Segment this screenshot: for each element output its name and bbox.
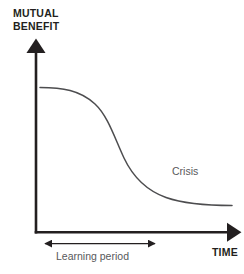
crisis-annotation-label: Crisis xyxy=(172,165,198,177)
y-axis-title: MUTUALBENEFIT xyxy=(13,7,59,32)
data-curve-mutual-benefit xyxy=(40,88,232,206)
chart-plot-area xyxy=(0,0,244,274)
x-axis-title: TIME xyxy=(212,246,238,259)
learning-period-annotation-label: Learning period xyxy=(56,250,129,262)
y-axis-title-line1: MUTUAL xyxy=(13,7,59,19)
y-axis-title-line2: BENEFIT xyxy=(13,20,59,32)
chart-figure: MUTUALBENEFIT TIME Crisis Learning perio… xyxy=(0,0,244,274)
